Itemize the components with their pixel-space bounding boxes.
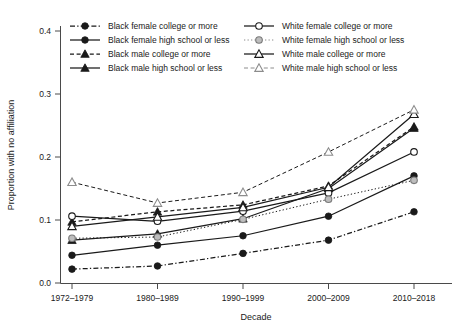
marker-filled-triangle xyxy=(81,50,89,58)
marker-open-triangle xyxy=(153,199,161,207)
marker-open-triangle xyxy=(410,106,418,114)
x-tick-label: 1990–1999 xyxy=(222,293,265,303)
legend-label: Black female high school or less xyxy=(108,35,229,45)
marker-filled-circle xyxy=(82,23,89,30)
series-layer xyxy=(68,106,418,273)
marker-filled-circle xyxy=(69,252,76,259)
marker-filled-circle xyxy=(82,37,89,44)
legend-label: White female high school or less xyxy=(282,35,404,45)
legend-item-L3[interactable]: Black male high school or less xyxy=(70,63,222,73)
marker-filled-circle xyxy=(325,237,332,244)
x-tick-label: 1972–1979 xyxy=(51,293,94,303)
legend-item-R0[interactable]: White female college or more xyxy=(244,21,393,31)
y-tick-label: 0.2 xyxy=(39,152,51,162)
legend-item-R1[interactable]: White female high school or less xyxy=(244,35,404,45)
marker-gray-circle xyxy=(240,216,247,223)
legend-label: Black female college or more xyxy=(108,21,218,31)
marker-open-triangle xyxy=(68,178,76,186)
marker-filled-circle xyxy=(154,263,161,270)
series-3 xyxy=(68,124,418,244)
legend-label: White female college or more xyxy=(282,21,393,31)
marker-filled-circle xyxy=(240,232,247,239)
marker-open-triangle xyxy=(255,64,263,72)
legend-label: White male college or more xyxy=(282,49,386,59)
x-tick-label: 2000–2009 xyxy=(307,293,350,303)
series-polyline xyxy=(72,128,414,240)
marker-open-circle xyxy=(69,213,76,220)
marker-gray-circle xyxy=(411,177,418,184)
x-tick-group: 1972–19791980–19891990–19992000–20092010… xyxy=(51,284,436,304)
marker-open-circle xyxy=(411,149,418,156)
legend-item-R2[interactable]: White male college or more xyxy=(244,49,386,59)
marker-open-triangle xyxy=(239,188,247,196)
marker-filled-circle xyxy=(154,242,161,249)
x-tick-label: 1980–1989 xyxy=(136,293,179,303)
legend-label: White male high school or less xyxy=(282,63,397,73)
x-axis-title: Decade xyxy=(240,312,271,322)
y-tick-label: 0.1 xyxy=(39,215,51,225)
legend-layer: Black female college or moreBlack female… xyxy=(70,21,404,73)
y-tick-label: 0.4 xyxy=(39,26,51,36)
marker-gray-circle xyxy=(325,196,332,203)
marker-filled-circle xyxy=(240,250,247,257)
marker-gray-circle xyxy=(256,37,263,44)
marker-open-triangle xyxy=(324,148,332,156)
y-tick-group: 0.00.10.20.30.4 xyxy=(39,26,60,288)
marker-filled-circle xyxy=(325,213,332,220)
legend-item-R3[interactable]: White male high school or less xyxy=(244,63,397,73)
marker-gray-circle xyxy=(69,235,76,242)
legend-item-L2[interactable]: Black male college or more xyxy=(70,49,211,59)
legend-item-L0[interactable]: Black female college or more xyxy=(70,21,218,31)
no-affiliation-line-chart: 0.00.10.20.30.4 1972–19791980–19891990–1… xyxy=(0,0,464,334)
marker-filled-circle xyxy=(69,266,76,273)
y-tick-label: 0.0 xyxy=(39,278,51,288)
y-axis-title: Proportion with no affiliation xyxy=(6,100,16,210)
marker-open-circle xyxy=(256,23,263,30)
x-tick-label: 2010–2018 xyxy=(393,293,436,303)
legend-item-L1[interactable]: Black female high school or less xyxy=(70,35,229,45)
legend-label: Black male high school or less xyxy=(108,63,222,73)
y-tick-label: 0.3 xyxy=(39,89,51,99)
marker-filled-circle xyxy=(411,209,418,216)
marker-gray-circle xyxy=(154,234,161,241)
legend-label: Black male college or more xyxy=(108,49,211,59)
chart-figure: 0.00.10.20.30.4 1972–19791980–19891990–1… xyxy=(0,0,464,334)
